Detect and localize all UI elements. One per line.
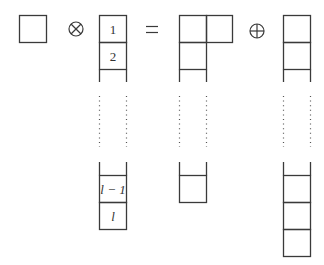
cell-label-l-minus-1: l − 1: [100, 182, 125, 197]
single-box: [20, 16, 47, 43]
hook-tableau: [180, 16, 233, 203]
cell-label-1: 1: [110, 22, 117, 37]
cell-label-2: 2: [110, 49, 117, 64]
cell-label-l: l: [111, 209, 115, 224]
direct-sum-icon: [250, 24, 264, 38]
long-column-tableau: [284, 16, 311, 257]
column-tableau: 1 2 l − 1 l: [100, 16, 127, 230]
tensor-product-icon: [69, 22, 83, 36]
young-tableaux-diagram: 1 2 l − 1 l: [0, 0, 324, 265]
equals-sign: [146, 27, 158, 33]
